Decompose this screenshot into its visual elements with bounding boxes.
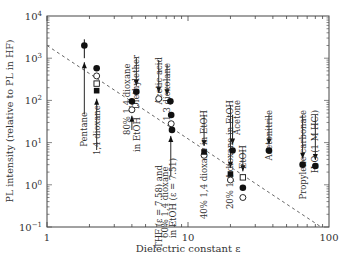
point-filled-circle	[93, 65, 100, 72]
x-tick-label: 1	[44, 232, 50, 243]
annotations: Pentane1,4 dioxaneDiethylether80% 1,4 di…	[79, 54, 320, 248]
point-open-circle	[227, 177, 233, 183]
chart-canvas: 10−1100101102103104 110100 Pentane1,4 di…	[0, 0, 352, 263]
x-tick-label: 10	[182, 232, 195, 243]
point-filled-circle	[81, 42, 88, 49]
point-open-circle	[156, 96, 162, 102]
annotation-label: in EtOH	[132, 117, 142, 152]
annotation-label: 40% 1,4 dioxane in EtOH	[199, 110, 209, 219]
point-open-circle	[168, 121, 174, 127]
x-tick-label: 100	[319, 232, 338, 243]
point-open-circle	[94, 73, 100, 79]
annotation-label: Propylene carbonate	[298, 110, 308, 200]
point-filled-circle	[299, 161, 306, 168]
point-filled-circle	[169, 127, 176, 134]
point-open-square	[94, 81, 99, 86]
point-filled-circle	[168, 112, 175, 119]
point-filled-square	[228, 171, 234, 177]
point-filled-circle	[133, 88, 140, 95]
point-filled-circle	[167, 98, 174, 105]
annotation-label: EtOH	[238, 145, 248, 169]
point-filled-square	[94, 88, 100, 94]
annotation-label: 1,4 dioxane	[92, 105, 102, 155]
point-open-circle	[129, 107, 135, 113]
point-open-circle	[240, 195, 246, 201]
y-tick-label: 101	[25, 137, 42, 149]
annotation-label: in EtOH (ε = 7.51)	[168, 158, 178, 238]
y-tick-label: 100	[25, 179, 42, 191]
annotation-label: Acetonitrile	[264, 110, 274, 162]
point-filled-circle	[266, 147, 273, 154]
annotation-label: Acetone	[232, 100, 242, 136]
x-axis-label: Dielectric constant ε	[136, 243, 241, 254]
y-tick-label: 103	[25, 52, 42, 64]
point-filled-circle	[240, 184, 247, 191]
point-filled-square	[201, 149, 207, 155]
annotation-label: Pentane	[79, 112, 89, 147]
point-open-square	[240, 175, 245, 180]
y-tick-label: 10−1	[19, 221, 42, 233]
point-filled-circle	[312, 163, 319, 170]
y-axis-label: PL intensity (relative to PL in HF)	[4, 39, 15, 202]
x-tick-labels: 110100	[44, 232, 339, 243]
y-tick-label: 102	[25, 94, 42, 106]
point-filled-circle	[129, 98, 136, 105]
point-filled-circle	[229, 147, 236, 154]
y-tick-label: 104	[25, 10, 43, 22]
y-tick-labels: 10−1100101102103104	[19, 10, 43, 233]
